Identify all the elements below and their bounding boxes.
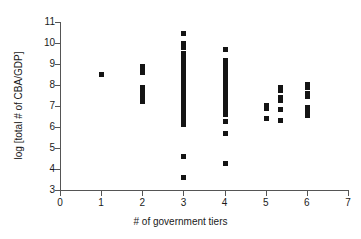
data-point bbox=[264, 106, 269, 111]
x-tick-label: 3 bbox=[173, 198, 193, 208]
y-tick-label: 5 bbox=[33, 143, 55, 153]
x-tick-label: 5 bbox=[256, 198, 276, 208]
scatter-chart-figure: log [total # of CBA/GDP] 34567891011 012… bbox=[0, 0, 361, 239]
x-axis-title: # of government tiers bbox=[0, 216, 361, 227]
plot-data-area bbox=[60, 22, 348, 190]
y-tick-label: 8 bbox=[33, 80, 55, 90]
x-tick-label: 7 bbox=[338, 198, 358, 208]
x-tick-mark bbox=[101, 191, 102, 196]
y-tick-label: 11 bbox=[33, 17, 55, 27]
data-point bbox=[181, 175, 186, 180]
x-tick-label: 4 bbox=[215, 198, 235, 208]
x-tick-label: 0 bbox=[50, 198, 70, 208]
data-point bbox=[140, 70, 145, 75]
y-tick-label: 4 bbox=[33, 164, 55, 174]
data-point bbox=[278, 88, 283, 93]
data-point bbox=[223, 161, 228, 166]
x-tick-mark bbox=[348, 191, 349, 196]
y-axis-title: log [total # of CBA/GDP] bbox=[13, 26, 24, 186]
x-tick-label: 6 bbox=[297, 198, 317, 208]
y-tick-label: 6 bbox=[33, 122, 55, 132]
data-point bbox=[223, 131, 228, 136]
data-point bbox=[278, 118, 283, 123]
x-tick-mark bbox=[183, 191, 184, 196]
data-point bbox=[278, 98, 283, 103]
data-point bbox=[181, 154, 186, 159]
data-point bbox=[305, 85, 310, 90]
x-tick-mark bbox=[60, 191, 61, 196]
y-tick-label: 9 bbox=[33, 59, 55, 69]
x-tick-label: 2 bbox=[132, 198, 152, 208]
y-tick-label: 3 bbox=[33, 185, 55, 195]
data-point bbox=[278, 107, 283, 112]
data-point bbox=[264, 116, 269, 121]
data-point bbox=[181, 31, 186, 36]
x-axis-line bbox=[60, 190, 349, 191]
data-point bbox=[223, 47, 228, 52]
x-tick-mark bbox=[307, 191, 308, 196]
data-point bbox=[305, 94, 310, 99]
x-tick-mark bbox=[266, 191, 267, 196]
data-point bbox=[223, 112, 228, 117]
x-tick-label: 1 bbox=[91, 198, 111, 208]
data-point bbox=[181, 45, 186, 50]
data-point bbox=[223, 119, 228, 124]
y-tick-label: 10 bbox=[33, 38, 55, 48]
data-point bbox=[99, 72, 104, 77]
data-point bbox=[181, 122, 186, 127]
x-tick-mark bbox=[142, 191, 143, 196]
data-point bbox=[140, 99, 145, 104]
x-tick-mark bbox=[225, 191, 226, 196]
data-point bbox=[305, 113, 310, 118]
y-tick-label: 7 bbox=[33, 101, 55, 111]
